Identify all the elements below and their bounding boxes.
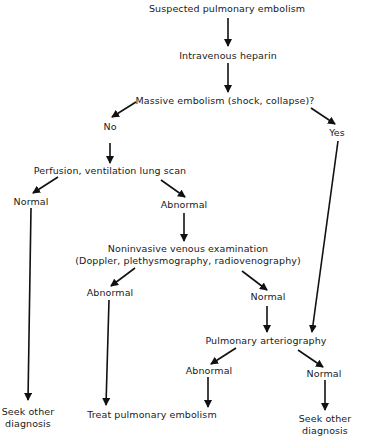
node-intravenous-heparin: Intravenous heparin — [179, 50, 277, 62]
arrow-venous-abnormal — [111, 268, 135, 286]
node-treat-pe: Treat pulmonary embolism — [87, 409, 217, 421]
seek2-line1: Seek other — [299, 413, 352, 425]
node-art-normal: Normal — [307, 368, 342, 380]
node-seek-other-1: Seek other diagnosis — [2, 406, 55, 430]
node-no: No — [103, 121, 116, 133]
node-suspected-pe: Suspected pulmonary embolism — [149, 3, 305, 15]
arrow-venous-normal — [242, 271, 267, 290]
arrow-massive-yes — [311, 108, 335, 124]
node-scan-abnormal: Abnormal — [161, 199, 208, 211]
node-massive-embolism: Massive embolism (shock, collapse)? — [136, 95, 315, 107]
node-lung-scan: Perfusion, ventilation lung scan — [34, 165, 186, 177]
node-pulmonary-arteriography: Pulmonary arteriography — [205, 335, 326, 347]
venous-exam-line2: (Doppler, plethysmography, radiovenograp… — [75, 255, 301, 267]
seek2-line2: diagnosis — [299, 425, 352, 437]
arrow-art-normal — [298, 350, 323, 367]
arrow-venous-abnormal-treat — [106, 300, 109, 405]
node-venous-normal: Normal — [251, 291, 286, 303]
node-yes: Yes — [329, 127, 345, 139]
venous-exam-line1: Noninvasive venous examination — [75, 243, 301, 255]
arrow-art-abnormal — [211, 348, 236, 364]
arrow-yes-art — [312, 141, 338, 332]
seek1-line1: Seek other — [2, 406, 55, 418]
arrow-scan-abnormal — [161, 180, 185, 197]
node-scan-normal: Normal — [14, 196, 49, 208]
node-seek-other-2: Seek other diagnosis — [299, 413, 352, 437]
node-venous-abnormal: Abnormal — [87, 287, 134, 299]
seek1-line2: diagnosis — [2, 418, 55, 430]
arrow-massive-no — [112, 102, 136, 117]
arrow-scan-normal — [33, 177, 58, 193]
node-art-abnormal: Abnormal — [186, 365, 233, 377]
node-venous-exam: Noninvasive venous examination (Doppler,… — [75, 243, 301, 267]
arrow-scan-normal-seek1 — [28, 208, 31, 400]
